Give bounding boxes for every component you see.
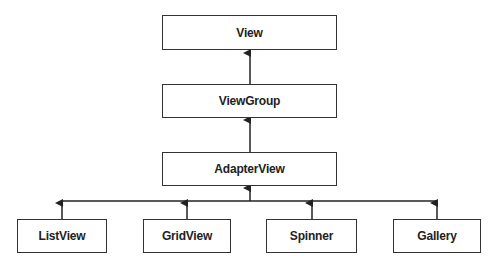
node-view: View — [162, 15, 337, 50]
node-gridview-label: GridView — [162, 229, 212, 243]
node-gridview: GridView — [143, 219, 231, 253]
node-spinner: Spinner — [266, 219, 357, 253]
node-adapterview-label: AdapterView — [214, 162, 284, 176]
node-view-label: View — [236, 26, 262, 40]
node-viewgroup: ViewGroup — [162, 84, 337, 118]
node-gallery-label: Gallery — [417, 229, 456, 243]
node-listview: ListView — [17, 219, 107, 253]
node-listview-label: ListView — [39, 229, 86, 243]
node-gallery: Gallery — [393, 219, 481, 253]
node-adapterview: AdapterView — [162, 152, 337, 186]
node-viewgroup-label: ViewGroup — [219, 94, 280, 108]
node-spinner-label: Spinner — [290, 229, 333, 243]
